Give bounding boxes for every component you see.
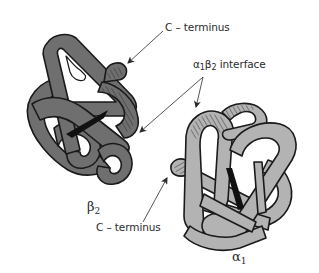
alpha1-label: α1 xyxy=(232,250,247,266)
c-terminus-bottom-text: C – terminus xyxy=(96,221,161,233)
interface-suffix: interface xyxy=(216,58,265,70)
alpha1-sub: 1 xyxy=(241,256,247,266)
beta2-symbol: β xyxy=(87,199,95,214)
beta2-label: β2 xyxy=(87,200,100,216)
c-terminus-top-label: C – terminus xyxy=(165,22,230,33)
interface-alpha: α xyxy=(193,58,200,70)
c-terminus-bottom-label: C – terminus xyxy=(96,222,161,233)
interface-label: α1β2 interface xyxy=(193,59,266,72)
alpha1-symbol: α xyxy=(232,249,241,264)
beta2-subunit xyxy=(27,35,138,185)
c-terminus-top-text: C – terminus xyxy=(165,21,230,33)
beta2-sub: 2 xyxy=(95,206,101,216)
c-terminus-top-arrow xyxy=(128,31,163,63)
c-terminus-bottom-arrow xyxy=(143,178,167,222)
interface-arrow-right xyxy=(196,77,203,107)
